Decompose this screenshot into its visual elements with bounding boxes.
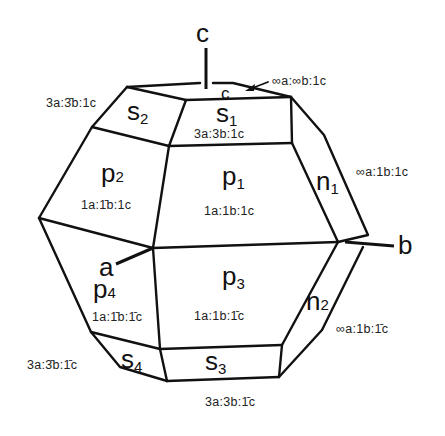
top-edge-left	[127, 83, 200, 87]
b-axis-label: b	[398, 230, 412, 260]
face-n1-label: n1	[316, 166, 339, 197]
equator-edge	[153, 242, 338, 248]
a-axis-line	[116, 248, 153, 264]
s3-right-edge	[279, 345, 282, 377]
face-n1-index: ∞a:1b:1c	[356, 165, 408, 179]
c-face-index: ∞a:∞b:1c	[272, 74, 326, 88]
face-s3-label: s3	[205, 346, 226, 377]
p1-left-edge	[153, 146, 169, 248]
face-p1-index: 1a:1b:1c	[204, 204, 254, 218]
c-axis-label: c	[196, 18, 209, 48]
face-s1-index: 3a:3b:1c	[194, 127, 244, 141]
face-p2-index: 1a:1̄b:1c	[81, 198, 131, 212]
face-s1-label: s1	[216, 98, 237, 129]
face-s2-index: 3a:3̄b:1c	[46, 96, 96, 110]
crystal-diagram: c b a c ∞a:∞b:1c s2 3a:3̄b:1c s1 3a:3b:1…	[0, 0, 445, 436]
face-s2-label: s2	[127, 96, 148, 127]
face-s4-label: s4	[121, 344, 142, 375]
face-p4-index: 1a:1̄b:1̄c	[92, 310, 142, 324]
b-axis-line	[345, 242, 394, 246]
crystal-axes: c b a	[99, 18, 412, 282]
face-s4-index: 3a:3̄b:1̄c	[27, 358, 77, 372]
p3-left-edge	[153, 248, 167, 381]
s3-top-edge	[160, 345, 282, 349]
face-p1-label: p1	[222, 161, 245, 192]
s1-bottom-edge	[169, 143, 292, 146]
s3-bottom-edge	[167, 377, 279, 381]
face-labels: s2 3a:3̄b:1c s1 3a:3b:1c p2 1a:1̄b:1c p1…	[27, 96, 408, 409]
face-p2-label: p2	[101, 158, 124, 188]
face-s3-index: 3a:3b:1̄c	[205, 395, 255, 409]
s2-bottom-edge	[92, 127, 169, 146]
face-n2-index: ∞a:1b:1̄c	[336, 322, 388, 336]
s2-top-edge	[127, 87, 291, 100]
s1-right-edge	[291, 97, 292, 143]
face-n2-label: n2	[306, 286, 329, 316]
face-p3-label: p3	[222, 261, 245, 292]
s1-left-edge	[169, 100, 186, 146]
p2-bottom-edge	[39, 218, 153, 248]
face-p3-index: 1a:1b:1̄c	[194, 309, 244, 323]
